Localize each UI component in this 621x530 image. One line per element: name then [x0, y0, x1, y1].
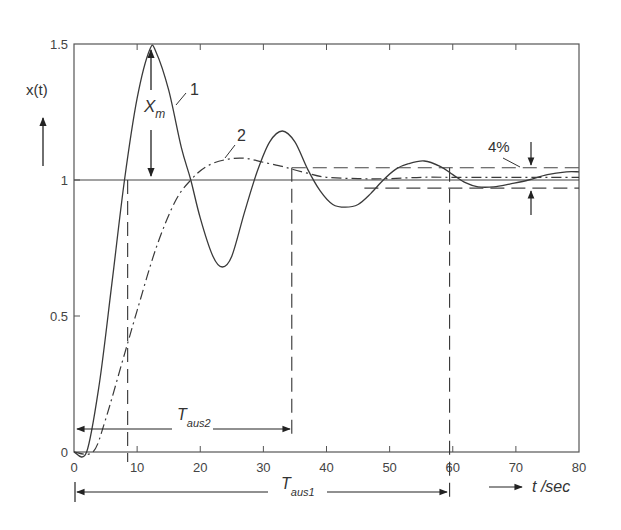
curve-1-label: 1 — [190, 81, 199, 98]
curve-1-leader — [176, 93, 186, 105]
y-axis-label: x(t) — [26, 81, 48, 98]
x-tick-label: 70 — [509, 460, 523, 475]
settling-time-markers — [128, 168, 450, 500]
y-tick-label: 0 — [61, 445, 68, 460]
x-tick-label: 40 — [319, 460, 333, 475]
band-label: 4% — [488, 138, 510, 155]
x-tick-label: 60 — [446, 460, 460, 475]
taus2-label: Taus2 — [177, 406, 211, 429]
curve-2-label: 2 — [237, 127, 246, 144]
x-tick-label: 50 — [382, 460, 396, 475]
x-tick-label: 20 — [193, 460, 207, 475]
x-tick-label: 0 — [70, 460, 77, 475]
step-response-chart: 01020304050607080 00.511.5 Xm 1 2 4% x(t… — [0, 0, 621, 530]
taus1-label: Taus1 — [281, 475, 315, 498]
curve-2-leader — [225, 145, 235, 158]
y-tick-label: 1 — [61, 173, 68, 188]
curve-2 — [74, 158, 579, 454]
y-tick-label: 1.5 — [50, 37, 68, 52]
x-tick-label: 10 — [130, 460, 144, 475]
y-tick-label: 0.5 — [50, 309, 68, 324]
x-axis-label: t /sec — [532, 478, 570, 495]
x-tick-label: 30 — [256, 460, 270, 475]
y-axis-ticks: 00.511.5 — [50, 37, 80, 460]
xm-label: Xm — [143, 97, 165, 121]
band-leader — [503, 158, 520, 167]
x-tick-label: 80 — [572, 460, 586, 475]
